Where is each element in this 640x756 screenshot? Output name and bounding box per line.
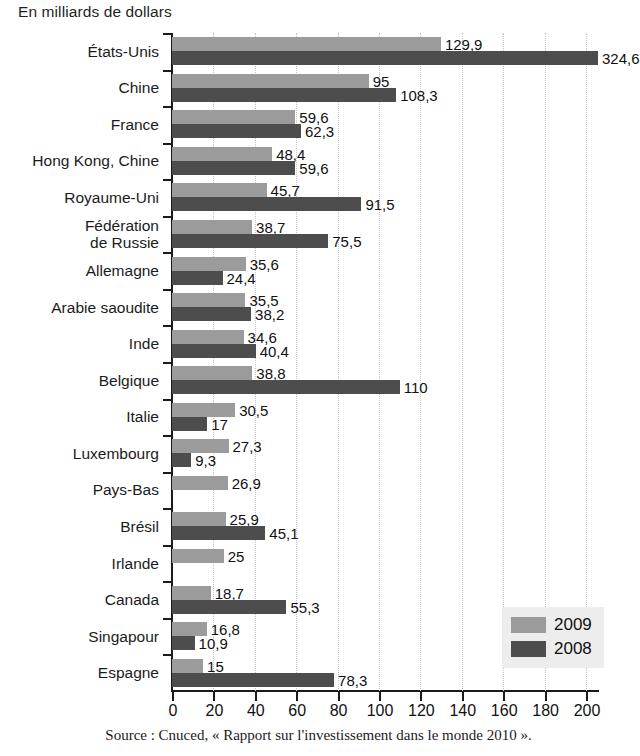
bar-value-label: 45,7 — [271, 184, 300, 198]
category-label: Arabie saoudite — [51, 299, 159, 316]
category-label: Irlande — [112, 555, 159, 572]
bar-2008 — [172, 234, 328, 248]
bar-2008 — [172, 453, 191, 467]
category-tick — [163, 508, 172, 510]
x-axis-tick — [338, 692, 340, 701]
x-axis-tick — [586, 692, 588, 701]
category-label-line: Arabie saoudite — [51, 299, 159, 316]
x-axis-label: 200 — [574, 702, 601, 720]
bar-2009 — [172, 147, 272, 161]
x-axis-label: 20 — [205, 702, 223, 720]
bar-2008 — [172, 600, 286, 614]
category-label: États-Unis — [88, 43, 160, 60]
category-tick — [163, 362, 172, 364]
bar-row: Pays-Bas26,9 — [172, 472, 586, 509]
x-axis-label: 80 — [330, 702, 348, 720]
chart-legend: 20092008 — [502, 607, 604, 668]
x-axis-label: 100 — [367, 702, 394, 720]
bar-row: États-Unis129,9324,6 — [172, 33, 586, 70]
category-tick — [163, 70, 172, 72]
bar-row: Hong Kong, Chine48,459,6 — [172, 143, 586, 180]
bar-value-label: 26,9 — [232, 477, 261, 491]
category-tick — [163, 325, 172, 327]
bar-2009 — [172, 403, 235, 417]
x-axis-tick — [172, 692, 174, 701]
bar-2008 — [172, 526, 265, 540]
category-label-line: Brésil — [120, 518, 159, 535]
bar-value-label: 38,7 — [256, 221, 285, 235]
category-label-line: Fédération — [85, 217, 159, 234]
bar-value-label: 18,7 — [215, 587, 244, 601]
category-label-line: Royaume-Uni — [64, 189, 159, 206]
category-label-line: Pays-Bas — [93, 481, 159, 498]
x-axis-tick — [296, 692, 298, 701]
bar-value-label: 75,5 — [332, 235, 361, 249]
bar-value-label: 27,3 — [233, 440, 262, 454]
bar-2009 — [172, 659, 203, 673]
bar-2009 — [172, 330, 244, 344]
x-axis-label: 60 — [288, 702, 306, 720]
bar-2008 — [172, 344, 256, 358]
category-label-line: Inde — [129, 335, 159, 352]
bar-row: Allemagne35,624,4 — [172, 252, 586, 289]
bar-2008 — [172, 673, 334, 687]
category-label: Pays-Bas — [93, 481, 159, 498]
bar-value-label: 9,3 — [195, 454, 216, 468]
category-label: Royaume-Uni — [64, 189, 159, 206]
bar-row: France59,662,3 — [172, 106, 586, 143]
bar-2009 — [172, 586, 211, 600]
category-label-line: Canada — [105, 591, 159, 608]
bar-value-label: 110 — [404, 381, 428, 395]
bar-2009 — [172, 257, 246, 271]
bar-2009 — [172, 293, 245, 307]
bar-value-label: 10,9 — [199, 637, 228, 651]
bar-2009 — [172, 549, 224, 563]
bar-2009 — [172, 37, 441, 51]
category-tick — [163, 618, 172, 620]
category-label: Luxembourg — [73, 445, 159, 462]
x-axis-tick — [379, 692, 381, 701]
bar-value-label: 17 — [211, 418, 228, 432]
category-label: Chine — [119, 79, 160, 96]
bar-value-label: 129,9 — [445, 38, 483, 52]
bar-value-label: 55,3 — [290, 601, 319, 615]
category-label-line: Chine — [119, 79, 160, 96]
bar-value-label: 91,5 — [365, 198, 394, 212]
bar-value-label: 30,5 — [239, 404, 268, 418]
category-label-line: Italie — [126, 408, 159, 425]
bar-value-label: 40,4 — [260, 345, 289, 359]
category-label-line: Singapour — [88, 628, 159, 645]
category-tick — [163, 179, 172, 181]
bar-row: Fédérationde Russie38,775,5 — [172, 216, 586, 253]
bar-row: Arabie saoudite35,538,2 — [172, 289, 586, 326]
x-axis-tick — [545, 692, 547, 701]
x-axis-tick — [420, 692, 422, 701]
category-label-line: Luxembourg — [73, 445, 159, 462]
bar-2008 — [172, 380, 400, 394]
bar-2008 — [172, 636, 195, 650]
bar-value-label: 324,6 — [602, 52, 640, 66]
category-tick — [163, 216, 172, 218]
category-tick — [163, 399, 172, 401]
category-label-line: France — [111, 116, 159, 133]
plot-area: États-Unis129,9324,6Chine95108,3France59… — [172, 33, 586, 691]
category-label: Brésil — [120, 518, 159, 535]
category-label: Hong Kong, Chine — [32, 152, 159, 169]
category-label: Canada — [105, 591, 159, 608]
bar-2009 — [172, 439, 229, 453]
category-tick — [163, 654, 172, 656]
category-tick — [163, 472, 172, 474]
bar-2008 — [172, 197, 361, 211]
bar-2009 — [172, 366, 252, 380]
bar-row: Chine95108,3 — [172, 70, 586, 107]
category-label: Inde — [129, 335, 159, 352]
bar-value-label: 45,1 — [269, 527, 298, 541]
source-note: Source : Cnuced, « Rapport sur l'investi… — [0, 727, 637, 744]
x-axis-label: 40 — [247, 702, 265, 720]
legend-swatch — [511, 617, 546, 633]
x-axis-label: 0 — [169, 702, 178, 720]
legend-label: 2009 — [554, 614, 592, 635]
x-axis-tick — [503, 692, 505, 701]
bar-2008 — [172, 307, 251, 321]
category-label: Italie — [126, 408, 159, 425]
